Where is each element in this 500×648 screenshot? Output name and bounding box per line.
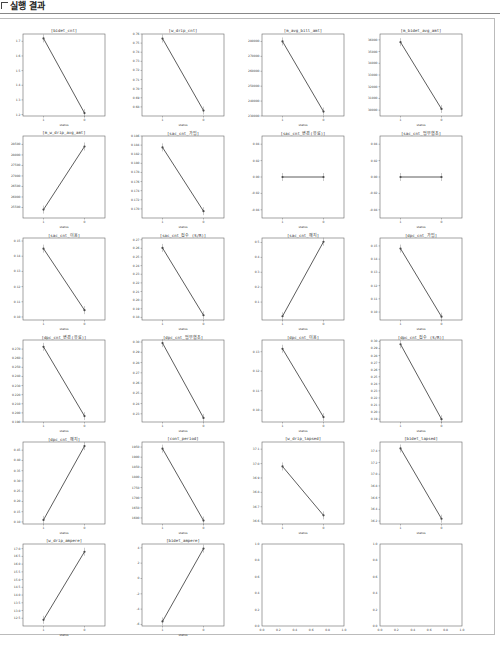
svg-text:1: 1: [162, 220, 164, 224]
x-axis-label: status: [142, 225, 224, 229]
chart-title: [bidet_lapsed]: [380, 436, 462, 441]
svg-text:0.04: 0.04: [253, 142, 260, 146]
svg-text:0.72: 0.72: [133, 68, 140, 72]
svg-text:0.176: 0.176: [131, 180, 140, 184]
chart-title: [cont_period]: [142, 436, 224, 441]
svg-text:0.70: 0.70: [133, 87, 140, 91]
svg-text:0.28: 0.28: [133, 361, 140, 365]
svg-text:0.21: 0.21: [133, 290, 140, 294]
svg-text:0.10: 0.10: [253, 408, 260, 412]
x-axis-label: status: [380, 225, 462, 229]
svg-text:1: 1: [162, 526, 164, 530]
chart-sac_cnt_접수sr: [sac_cnt_접수 (S/R)]0.180.190.200.210.220.…: [142, 238, 224, 320]
svg-text:0.23: 0.23: [133, 412, 140, 416]
chart-grid: [bidet_cnt]1.21.31.41.51.61.710status[w_…: [0, 19, 494, 634]
svg-text:1750: 1750: [132, 486, 140, 490]
chart-sac_cnt_이용: [sac_cnt_이용]0.100.110.120.130.140.1510st…: [23, 238, 105, 320]
svg-text:0.1: 0.1: [255, 300, 260, 304]
svg-text:0.8: 0.8: [325, 628, 330, 632]
svg-text:0.24: 0.24: [371, 382, 378, 386]
svg-text:1.4: 1.4: [16, 83, 21, 87]
svg-text:0.15: 0.15: [371, 244, 378, 248]
svg-text:0.15: 0.15: [14, 510, 21, 514]
svg-text:0.24: 0.24: [133, 402, 140, 406]
plot-area: 0.100.110.120.130.140.1510: [23, 238, 105, 320]
svg-text:0.172: 0.172: [131, 198, 140, 202]
svg-text:0: 0: [84, 424, 86, 428]
svg-text:0.13: 0.13: [14, 269, 21, 273]
x-axis-label: status: [380, 531, 462, 535]
svg-text:1800: 1800: [132, 475, 140, 479]
svg-text:0.00: 0.00: [371, 175, 378, 179]
svg-text:0.182: 0.182: [131, 152, 140, 156]
svg-text:16.0: 16.0: [14, 562, 21, 566]
svg-text:240000: 240000: [248, 99, 260, 103]
svg-text:0.76: 0.76: [133, 32, 140, 36]
svg-text:-2: -2: [137, 592, 140, 596]
svg-text:0.25: 0.25: [371, 375, 378, 379]
svg-text:0.26: 0.26: [371, 368, 378, 372]
svg-text:0.11: 0.11: [253, 389, 260, 393]
svg-text:13.0: 13.0: [14, 609, 21, 613]
svg-text:1: 1: [400, 526, 402, 530]
svg-text:0: 0: [84, 628, 86, 632]
svg-text:1950: 1950: [132, 445, 140, 449]
svg-text:0: 0: [84, 118, 86, 122]
chart-m_w_drip_avg_amt: [m_w_drip_avg_amt]2550026000265002700027…: [23, 136, 105, 218]
svg-text:37.0: 37.0: [253, 462, 260, 466]
svg-text:0.10: 0.10: [14, 520, 21, 524]
chart-title: [w_drip_ampere]: [23, 538, 105, 543]
svg-text:0.00: 0.00: [253, 175, 260, 179]
svg-text:0.10: 0.10: [14, 315, 21, 319]
svg-text:0.20: 0.20: [133, 298, 140, 302]
svg-text:0.20: 0.20: [14, 499, 21, 503]
svg-text:0.3: 0.3: [255, 270, 260, 274]
svg-text:0: 0: [84, 220, 86, 224]
plot-area: 2550026000265002700027500280002850010: [23, 136, 105, 218]
svg-text:0.04: 0.04: [371, 142, 378, 146]
svg-text:0.2: 0.2: [276, 628, 281, 632]
svg-text:0.2: 0.2: [373, 608, 378, 612]
svg-text:0.73: 0.73: [133, 59, 140, 63]
svg-text:35000: 35000: [368, 50, 378, 54]
svg-text:0: 0: [323, 118, 325, 122]
svg-text:1: 1: [43, 526, 45, 530]
svg-text:0.6: 0.6: [373, 575, 378, 579]
svg-text:0.02: 0.02: [253, 159, 260, 163]
svg-text:0.23: 0.23: [371, 389, 378, 393]
svg-text:0.20: 0.20: [371, 410, 378, 414]
plot-area: 0.1700.1720.1740.1760.1780.1800.1820.184…: [142, 136, 224, 218]
svg-text:0.35: 0.35: [14, 469, 21, 473]
x-axis-label: status: [23, 633, 105, 637]
svg-text:27000: 27000: [11, 174, 21, 178]
svg-text:1: 1: [43, 628, 45, 632]
svg-text:36.9: 36.9: [253, 476, 260, 480]
section-header: 실행 결과: [0, 0, 500, 12]
svg-text:0.26: 0.26: [133, 381, 140, 385]
svg-text:1: 1: [282, 526, 284, 530]
svg-text:0: 0: [84, 526, 86, 530]
chart-cont_period: [cont_period]160016501700175018001850190…: [142, 442, 224, 524]
svg-text:1: 1: [400, 424, 402, 428]
svg-text:25500: 25500: [11, 205, 21, 209]
plot-area: 0.100.150.200.250.300.350.400.4510: [23, 442, 105, 524]
x-axis-label: status: [262, 531, 344, 535]
svg-text:0: 0: [203, 424, 205, 428]
svg-text:36000: 36000: [368, 38, 378, 42]
plot-area: 0.10.20.30.40.510: [262, 238, 344, 320]
chart-sac_cnt_해지: [sac_cnt_해지]0.10.20.30.40.510status: [262, 238, 344, 320]
svg-text:36.4: 36.4: [371, 507, 378, 511]
svg-text:0.6: 0.6: [255, 575, 260, 579]
chart-title: [m_bidet_avg_amt]: [380, 28, 462, 33]
plot-area: 0.100.110.120.130.140.1510: [380, 238, 462, 320]
svg-text:0.4: 0.4: [292, 628, 297, 632]
svg-text:0.186: 0.186: [131, 134, 140, 138]
svg-text:0.30: 0.30: [371, 339, 378, 343]
chart-sac_cnt_가입: [sac_cnt_가입]0.1700.1720.1740.1760.1780.1…: [142, 136, 224, 218]
svg-text:1: 1: [43, 424, 45, 428]
svg-text:1: 1: [162, 118, 164, 122]
svg-text:0.30: 0.30: [14, 479, 21, 483]
svg-text:0: 0: [203, 322, 205, 326]
plot-area: 0.230.240.250.260.270.280.290.3010: [142, 340, 224, 422]
x-axis-label: status: [23, 327, 105, 331]
